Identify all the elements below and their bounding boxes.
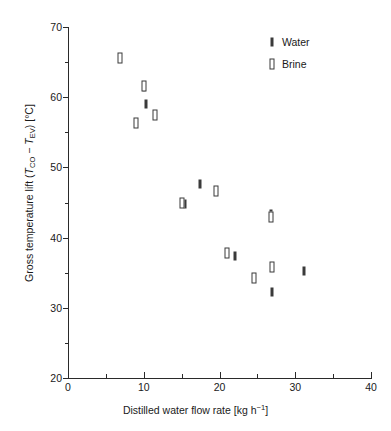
- data-point-brine: [269, 211, 274, 222]
- data-point-brine: [225, 248, 230, 259]
- legend-marker-icon: [266, 36, 278, 49]
- y-axis-title-sub-co: CO: [28, 157, 37, 168]
- x-axis-line: [68, 378, 372, 379]
- plot-area: [68, 27, 371, 378]
- x-axis-title-exponent: −1: [257, 403, 266, 412]
- y-axis-title-tail: ) [°C]: [23, 104, 35, 128]
- data-point-brine: [134, 118, 139, 129]
- data-point-water: [145, 100, 148, 109]
- y-axis-title: Gross temperature lift (TCO − TEV) [°C]: [23, 13, 35, 373]
- x-tick-label: 30: [289, 381, 301, 393]
- data-point-brine: [269, 262, 274, 273]
- x-tick-label: 40: [365, 381, 377, 393]
- x-tick-label: 0: [65, 381, 71, 393]
- data-point-brine: [118, 52, 123, 63]
- y-tick-label: 40: [40, 232, 62, 244]
- y-tick-label: 60: [40, 91, 62, 103]
- y-tick-label: 70: [40, 21, 62, 33]
- data-point-water: [303, 267, 306, 276]
- x-axis-title: Distilled water flow rate [kg h−1]: [0, 404, 391, 416]
- data-point-brine: [214, 185, 219, 196]
- y-tick-label: 30: [40, 302, 62, 314]
- legend-item-brine: Brine: [266, 53, 366, 75]
- y-axis-title-minus: −: [23, 145, 35, 157]
- data-point-water: [270, 288, 273, 297]
- y-tick-label: 50: [40, 161, 62, 173]
- legend-item-water: Water: [266, 31, 366, 53]
- legend-marker-icon: [266, 58, 278, 71]
- x-tick-label: 20: [214, 381, 226, 393]
- y-axis-title-symbol-tev: T: [23, 138, 35, 144]
- legend-label: Brine: [282, 58, 307, 70]
- legend-label: Water: [282, 36, 310, 48]
- y-axis-title-symbol-tco: T: [23, 168, 35, 174]
- chart-legend: WaterBrine: [266, 31, 366, 75]
- y-tick-major: [63, 378, 69, 379]
- scatter-chart-figure: 010203040203040506070 Distilled water fl…: [0, 0, 391, 431]
- data-point-brine: [251, 272, 256, 283]
- y-axis-title-lead: Gross temperature lift (: [23, 175, 35, 282]
- x-axis-title-text: Distilled water flow rate [kg h: [123, 404, 257, 416]
- y-tick-label: 20: [40, 372, 62, 384]
- y-axis-title-sub-ev: EV: [28, 128, 37, 138]
- x-tick-major: [371, 372, 372, 378]
- data-point-brine: [153, 109, 158, 120]
- data-point-water: [184, 199, 187, 208]
- x-axis-title-tail: ]: [265, 404, 268, 416]
- data-point-brine: [179, 197, 184, 208]
- data-point-brine: [141, 80, 146, 91]
- x-tick-label: 10: [138, 381, 150, 393]
- data-point-water: [198, 180, 201, 189]
- data-point-water: [233, 251, 236, 260]
